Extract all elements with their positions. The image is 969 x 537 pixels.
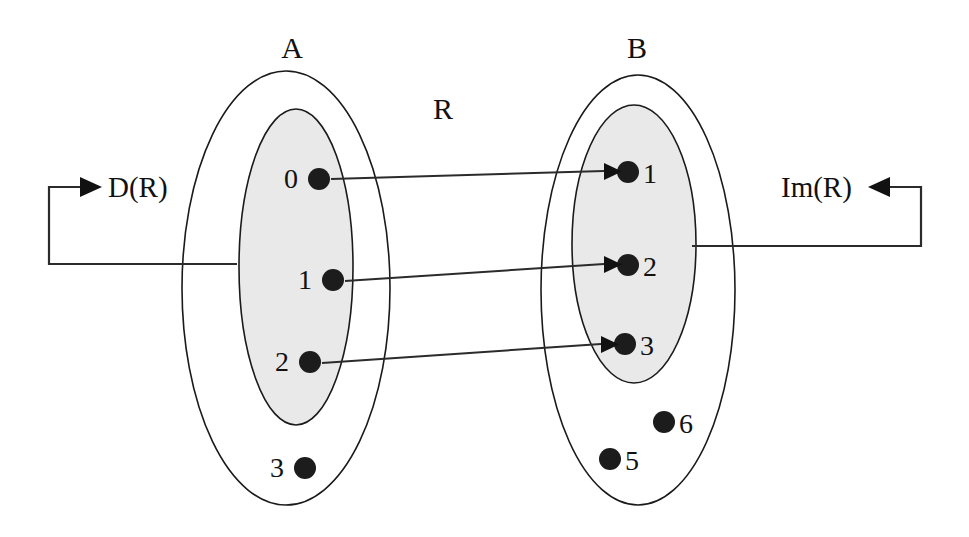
set-a-element-2-dot[interactable] (299, 351, 321, 373)
set-a-element-2-label: 2 (275, 346, 289, 377)
set-a-element-1-dot[interactable] (322, 269, 344, 291)
set-a-domain-ellipse (239, 109, 353, 425)
set-b-element-6-label: 6 (679, 408, 693, 439)
diagram-canvas: A 0 1 2 3 B 1 2 (0, 0, 969, 537)
set-b-element-1-label: 1 (643, 158, 657, 189)
set-a-title: A (281, 31, 303, 64)
set-a-element-3-dot[interactable] (294, 457, 316, 479)
set-b-element-2-label: 2 (643, 251, 657, 282)
set-b-element-5-dot[interactable] (599, 448, 621, 470)
set-b-title: B (627, 31, 647, 64)
set-a-element-1-label: 1 (298, 264, 312, 295)
set-relation-diagram: A 0 1 2 3 B 1 2 (0, 0, 969, 537)
image-label: Im(R) (781, 171, 852, 204)
set-a-group: A 0 1 2 3 (182, 31, 390, 505)
set-a-element-0-label: 0 (284, 163, 298, 194)
domain-arrow-head (80, 177, 102, 197)
set-a-element-3-label: 3 (270, 452, 284, 483)
relation-label: R (433, 92, 453, 125)
set-a-element-0-dot[interactable] (308, 168, 330, 190)
domain-label: D(R) (108, 171, 168, 204)
set-b-group: B 1 2 3 6 5 (541, 31, 735, 505)
image-arrow-head (868, 177, 890, 197)
set-b-element-6-dot[interactable] (653, 411, 675, 433)
set-b-element-3-label: 3 (640, 330, 654, 361)
set-b-element-5-label: 5 (625, 445, 639, 476)
